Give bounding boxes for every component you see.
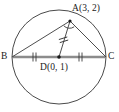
vertex-label-a: A(3, 2): [72, 4, 100, 14]
vertex-label-d: D(0, 1): [40, 63, 68, 73]
vertex-dot-a: [68, 19, 71, 22]
vertex-label-b: B: [1, 52, 7, 62]
geometry-figure: A(3, 2) B C D(0, 1): [0, 0, 119, 112]
segment-ac: [70, 21, 106, 57]
angle-arc-at-a: [64, 26, 74, 28]
vertex-label-c: C: [108, 52, 114, 62]
geometry-canvas: [0, 0, 119, 112]
tick-marks-da: [59, 37, 68, 43]
vertex-dot-d: [57, 55, 61, 59]
